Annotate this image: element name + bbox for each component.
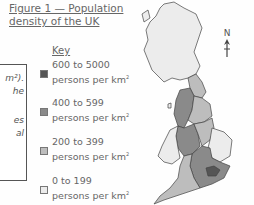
key-range: 200 to 399 bbox=[52, 135, 129, 148]
key-unit-line: persons per km2 bbox=[52, 109, 129, 124]
swatch-medium-dark bbox=[40, 108, 48, 116]
north-arrow: N bbox=[222, 28, 232, 60]
key-unit: persons per km bbox=[52, 151, 126, 162]
region-scotland bbox=[144, 2, 202, 82]
key-sup: 2 bbox=[126, 74, 129, 80]
figure-title: Figure 1 — Population density of the UK bbox=[9, 2, 123, 28]
text-fragment: es bbox=[14, 115, 24, 126]
north-arrow-icon bbox=[222, 38, 232, 58]
key-label: 600 to 5000 persons per km2 bbox=[52, 58, 129, 86]
key-range: 400 to 599 bbox=[52, 96, 129, 109]
key-label: 200 to 399 persons per km2 bbox=[52, 135, 129, 163]
key-unit-line: persons per km2 bbox=[52, 71, 129, 86]
figure-title-line2: density of the UK bbox=[9, 15, 123, 28]
island bbox=[142, 10, 150, 22]
key-unit: persons per km bbox=[52, 190, 126, 201]
key-label: 400 to 599 persons per km2 bbox=[52, 96, 129, 124]
cropped-text-box: m²). he es al bbox=[0, 64, 27, 181]
key-unit: persons per km bbox=[52, 112, 126, 123]
key-unit: persons per km bbox=[52, 74, 126, 85]
figure-title-line1: Figure 1 — Population bbox=[9, 2, 123, 15]
key-range: 600 to 5000 bbox=[52, 58, 129, 71]
key-unit-line: persons per km2 bbox=[52, 187, 129, 202]
key-sup: 2 bbox=[126, 112, 129, 118]
key-sup: 2 bbox=[126, 151, 129, 157]
uk-map bbox=[140, 0, 254, 205]
key-title: Key bbox=[52, 45, 70, 56]
key-unit-line: persons per km2 bbox=[52, 148, 129, 163]
text-fragment: he bbox=[13, 86, 24, 97]
key-label: 0 to 199 persons per km2 bbox=[52, 174, 129, 202]
swatch-light bbox=[40, 186, 48, 194]
text-fragment: m²). bbox=[5, 73, 24, 84]
key-range: 0 to 199 bbox=[52, 174, 129, 187]
north-label: N bbox=[222, 28, 232, 38]
text-fragment: al bbox=[16, 128, 24, 139]
key-sup: 2 bbox=[126, 190, 129, 196]
island-isle-of-man bbox=[168, 103, 171, 108]
swatch-medium-light bbox=[40, 147, 48, 155]
region-wales bbox=[158, 126, 180, 164]
swatch-dark bbox=[40, 70, 48, 78]
